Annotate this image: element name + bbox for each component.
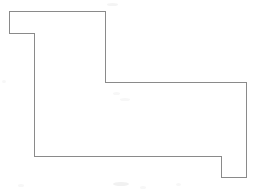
figure-background [0, 0, 256, 194]
polygon-figure [0, 0, 256, 194]
figure-canvas: rectilinear-polygon-outline [0, 0, 256, 194]
